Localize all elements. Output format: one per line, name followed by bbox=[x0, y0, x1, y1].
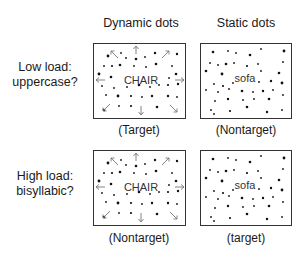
row-label-low-load: Low load: uppercase? bbox=[0, 60, 90, 90]
panel-word: CHAIR bbox=[124, 74, 158, 86]
row-label-line2: uppercase? bbox=[0, 75, 90, 90]
row-label-line1: High load: bbox=[0, 169, 90, 184]
panel-high-load-dynamic: CHAIR bbox=[93, 150, 186, 226]
panel-word: sofa bbox=[235, 72, 256, 84]
panel-word: sofa bbox=[235, 179, 256, 191]
row-label-line2: bisyllabic? bbox=[0, 184, 90, 199]
column-header-dynamic-dots: Dynamic dots bbox=[95, 16, 187, 30]
panel-caption: (Nontarget) bbox=[109, 231, 170, 245]
panel-word: CHAIR bbox=[124, 181, 158, 193]
row-label-high-load: High load: bisyllabic? bbox=[0, 169, 90, 199]
panel-low-load-static: sofa bbox=[200, 43, 292, 119]
column-header-static-dots: Static dots bbox=[200, 16, 292, 30]
panel-caption: (Nontarget) bbox=[216, 123, 277, 137]
panel-caption: (Target) bbox=[118, 123, 159, 137]
panel-high-load-static: sofa bbox=[200, 150, 292, 226]
row-label-line1: Low load: bbox=[0, 60, 90, 75]
panel-caption: (target) bbox=[227, 231, 266, 245]
panel-low-load-dynamic: CHAIR bbox=[93, 43, 186, 119]
